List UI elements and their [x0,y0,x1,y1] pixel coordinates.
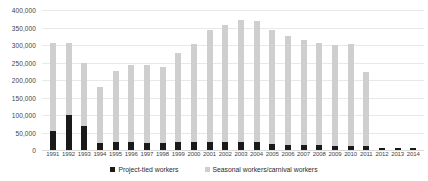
bar-segment-project-tied[interactable] [395,148,401,150]
bar-stack[interactable] [81,63,87,151]
bar-column[interactable] [296,10,312,150]
bar-stack[interactable] [144,65,150,150]
bar-column[interactable] [155,10,171,150]
bar-segment-project-tied[interactable] [50,131,56,150]
bar-stack[interactable] [410,148,416,150]
bar-column[interactable] [311,10,327,150]
x-axis-tick-label: 2007 [296,151,312,163]
bar-stack[interactable] [222,25,228,150]
bar-segment-project-tied[interactable] [222,142,228,150]
bar-segment-seasonal[interactable] [81,63,87,126]
bar-segment-seasonal[interactable] [191,44,197,142]
bar-stack[interactable] [207,30,213,150]
bar-stack[interactable] [285,36,291,150]
bar-segment-seasonal[interactable] [222,25,228,141]
bar-segment-seasonal[interactable] [175,53,181,142]
bar-column[interactable] [374,10,390,150]
bar-segment-seasonal[interactable] [97,87,103,143]
bar-column[interactable] [45,10,61,150]
bar-stack[interactable] [160,67,166,150]
bar-segment-project-tied[interactable] [285,145,291,150]
bar-column[interactable] [170,10,186,150]
bar-segment-seasonal[interactable] [207,30,213,142]
legend-item[interactable]: Seasonal workers/carnival workers [205,166,318,173]
bar-segment-project-tied[interactable] [113,142,119,150]
bar-column[interactable] [249,10,265,150]
bar-segment-seasonal[interactable] [128,65,134,143]
bar-column[interactable] [405,10,421,150]
bar-stack[interactable] [191,44,197,150]
bar-stack[interactable] [348,44,354,150]
bar-column[interactable] [139,10,155,150]
bar-stack[interactable] [379,148,385,150]
bar-segment-project-tied[interactable] [97,143,103,150]
bar-segment-project-tied[interactable] [191,142,197,150]
bar-segment-seasonal[interactable] [113,71,119,143]
bar-segment-seasonal[interactable] [332,45,338,146]
x-axis-tick-label: 2003 [233,151,249,163]
bar-segment-seasonal[interactable] [269,30,275,144]
bar-segment-seasonal[interactable] [66,43,72,115]
bar-segment-seasonal[interactable] [348,44,354,146]
bar-column[interactable] [264,10,280,150]
bar-segment-project-tied[interactable] [207,142,213,150]
bar-stack[interactable] [363,72,369,150]
bar-segment-project-tied[interactable] [175,142,181,150]
x-axis-tick-label: 2002 [217,151,233,163]
bar-column[interactable] [108,10,124,150]
bar-stack[interactable] [50,43,56,150]
bar-column[interactable] [217,10,233,150]
bar-segment-project-tied[interactable] [81,126,87,151]
bar-column[interactable] [327,10,343,150]
bar-stack[interactable] [332,45,338,150]
bar-segment-seasonal[interactable] [363,72,369,147]
bar-segment-project-tied[interactable] [332,146,338,150]
bar-column[interactable] [343,10,359,150]
bar-segment-seasonal[interactable] [301,40,307,145]
bar-column[interactable] [123,10,139,150]
bar-stack[interactable] [97,87,103,150]
bar-segment-project-tied[interactable] [238,142,244,150]
bar-segment-seasonal[interactable] [285,36,291,145]
bar-stack[interactable] [316,43,322,150]
bar-column[interactable] [61,10,77,150]
bar-segment-seasonal[interactable] [50,43,56,131]
bar-segment-project-tied[interactable] [269,144,275,150]
bar-segment-project-tied[interactable] [66,115,72,150]
bar-column[interactable] [390,10,406,150]
bar-segment-project-tied[interactable] [316,145,322,150]
y-axis-tick-label: 0 [32,147,36,154]
bar-segment-project-tied[interactable] [254,142,260,150]
bar-segment-project-tied[interactable] [160,143,166,150]
bar-column[interactable] [186,10,202,150]
bar-segment-project-tied[interactable] [348,146,354,150]
bar-column[interactable] [358,10,374,150]
bar-column[interactable] [202,10,218,150]
bar-stack[interactable] [66,43,72,150]
bar-segment-project-tied[interactable] [144,143,150,150]
bar-segment-seasonal[interactable] [160,67,166,142]
x-axis-tick-label: 2010 [343,151,359,163]
bar-stack[interactable] [128,65,134,150]
bar-stack[interactable] [301,40,307,150]
bar-segment-project-tied[interactable] [410,148,416,150]
bar-stack[interactable] [238,20,244,150]
bar-segment-seasonal[interactable] [238,20,244,142]
bar-segment-project-tied[interactable] [128,142,134,150]
bar-stack[interactable] [175,53,181,150]
bar-column[interactable] [233,10,249,150]
bar-column[interactable] [76,10,92,150]
bar-stack[interactable] [254,21,260,150]
bar-segment-seasonal[interactable] [144,65,150,143]
bar-stack[interactable] [269,30,275,150]
bar-segment-project-tied[interactable] [301,145,307,150]
bar-segment-seasonal[interactable] [316,43,322,145]
bar-stack[interactable] [395,148,401,150]
bar-segment-project-tied[interactable] [379,148,385,150]
bar-stack[interactable] [113,71,119,150]
bar-column[interactable] [92,10,108,150]
bar-column[interactable] [280,10,296,150]
bar-segment-project-tied[interactable] [363,146,369,150]
bar-segment-seasonal[interactable] [254,21,260,142]
legend-item[interactable]: Project-tied workers [110,166,178,173]
